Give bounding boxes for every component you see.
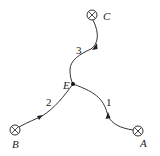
- network-diagram: E C B A 1 2 3: [0, 0, 160, 156]
- branch-3-label: 3: [76, 44, 82, 56]
- node-c-circled-x-icon: [87, 10, 97, 20]
- branch-2-label: 2: [46, 96, 52, 108]
- node-c-label: C: [103, 10, 111, 22]
- branch-1-path: [73, 84, 133, 130]
- branch-2-arrow-icon: [37, 115, 43, 120]
- junction-e-dot: [71, 82, 75, 86]
- node-a-circled-x-icon: [133, 126, 143, 136]
- node-a-label: A: [139, 137, 147, 149]
- node-b-circled-x-icon: [10, 125, 20, 135]
- branch-1-arrow-icon: [106, 112, 111, 119]
- branch-3-arrow-icon: [92, 43, 98, 50]
- branch-1-label: 1: [106, 96, 112, 108]
- junction-e-label: E: [62, 79, 70, 91]
- branch-3-path: [70, 20, 97, 84]
- node-b-label: B: [12, 138, 19, 150]
